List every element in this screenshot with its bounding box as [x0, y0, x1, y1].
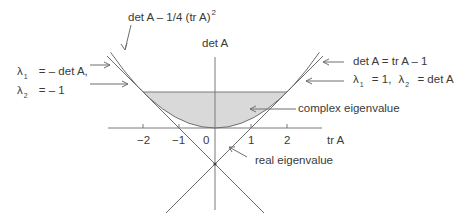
- right-annotation-l1-text: = 1,: [372, 73, 392, 85]
- line-lambda-neg1: [107, 56, 264, 213]
- x-axis-label: tr A: [327, 135, 344, 147]
- parabola-label-text: det A – 1/4 (tr A): [128, 11, 210, 23]
- left-annotation-line1: λ1 = – det A,: [17, 66, 88, 78]
- tick-label-neg2: −2: [137, 135, 150, 147]
- tick-label-0: 0: [203, 135, 209, 147]
- left-annotation-line2: λ2 = – 1: [17, 85, 65, 97]
- lambda-subscript: 2: [24, 92, 28, 99]
- right-line-equation: det A = tr A – 1: [353, 56, 428, 68]
- parabola-label-exponent: 2: [211, 8, 215, 17]
- complex-eigenvalue-label: complex eigenvalue: [298, 103, 400, 115]
- real-eigenvalue-label: real eigenvalue: [255, 155, 333, 167]
- left-annotation-line2-text: = – 1: [39, 84, 65, 96]
- tick-label-1: 1: [248, 135, 254, 147]
- lambda-symbol: λ: [399, 73, 405, 85]
- right-annotation-eigen: λ1 = 1, λ2 = det A: [353, 74, 454, 86]
- y-axis-label: det A: [202, 38, 228, 50]
- lambda-symbol: λ: [353, 73, 359, 85]
- line-lambda-1: [166, 56, 323, 213]
- intersection-point: [213, 162, 216, 165]
- tick-label-neg1: −1: [172, 135, 185, 147]
- lambda-subscript: 1: [24, 73, 28, 80]
- lambda-symbol: λ: [17, 84, 23, 96]
- left-annotation-line1-text: = – det A,: [39, 65, 88, 77]
- parabola-label: det A – 1/4 (tr A)2: [128, 12, 216, 24]
- lambda-subscript: 2: [405, 81, 409, 88]
- lambda-subscript: 1: [360, 81, 364, 88]
- tick-label-2: 2: [284, 135, 290, 147]
- lambda-symbol: λ: [17, 65, 23, 77]
- right-annotation-l2-text: = det A: [417, 73, 453, 85]
